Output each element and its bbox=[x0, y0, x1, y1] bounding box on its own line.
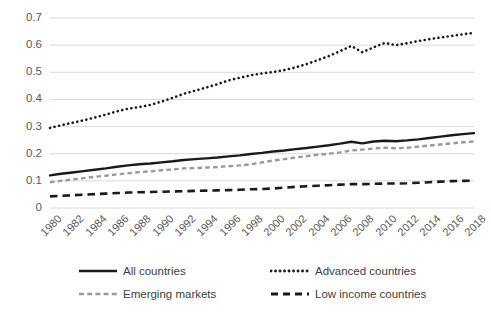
series-line bbox=[50, 33, 474, 128]
y-tick-label: 0.1 bbox=[8, 175, 42, 186]
legend-item-low-income-countries: Low income countries bbox=[270, 286, 426, 302]
series-line bbox=[50, 133, 474, 175]
series-line bbox=[50, 142, 474, 183]
legend-swatch-emerging-markets bbox=[78, 288, 118, 300]
legend-item-all-countries: All countries bbox=[78, 263, 186, 279]
legend-swatch-all-countries bbox=[78, 265, 118, 277]
series-lines bbox=[50, 33, 474, 196]
legend-swatch-advanced-countries bbox=[270, 265, 310, 277]
y-tick-label: 0.3 bbox=[8, 121, 42, 132]
legend-label-all-countries: All countries bbox=[123, 265, 186, 277]
legend-label-advanced-countries: Advanced countries bbox=[315, 265, 416, 277]
legend-swatch-low-income-countries bbox=[270, 288, 310, 300]
legend-label-low-income-countries: Low income countries bbox=[315, 288, 426, 300]
legend-item-emerging-markets: Emerging markets bbox=[78, 286, 216, 302]
y-tick-label: 0.6 bbox=[8, 39, 42, 50]
legend-item-advanced-countries: Advanced countries bbox=[270, 263, 416, 279]
y-tick-label: 0 bbox=[8, 202, 42, 213]
legend-label-emerging-markets: Emerging markets bbox=[123, 288, 216, 300]
y-tick-label: 0.5 bbox=[8, 66, 42, 77]
series-line bbox=[50, 181, 474, 197]
y-tick-label: 0.2 bbox=[8, 148, 42, 159]
y-tick-label: 0.7 bbox=[8, 12, 42, 23]
y-tick-label: 0.4 bbox=[8, 93, 42, 104]
line-chart: 00.10.20.30.40.50.60.7 19801982198419861… bbox=[0, 0, 491, 313]
chart-legend: All countries Advanced countries Emergin… bbox=[62, 261, 462, 309]
